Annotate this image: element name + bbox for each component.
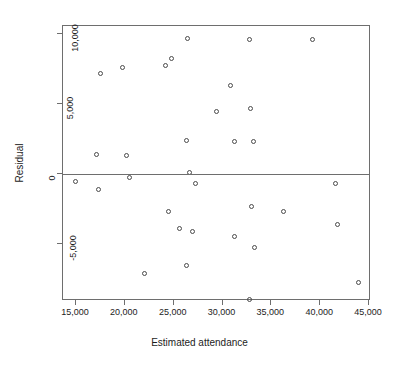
data-point [228,83,233,88]
data-point [184,138,189,143]
data-point [169,56,174,61]
data-point [73,179,78,184]
data-point [177,226,182,231]
x-tick-mark [270,300,271,305]
data-point [124,153,129,158]
data-point [248,106,253,111]
y-tick-label: 5,000 [65,96,75,119]
data-point [333,181,338,186]
x-tick-mark [319,300,320,305]
data-point [166,209,171,214]
x-tick-mark [368,300,369,305]
y-tick-label: 0 [47,175,57,180]
x-tick-mark [75,300,76,305]
y-tick-mark [57,103,62,104]
data-point [252,245,257,250]
x-tick-label: 30,000 [208,307,236,317]
data-point [120,65,125,70]
data-point [127,175,132,180]
data-point [96,187,101,192]
x-tick-label: 20,000 [110,307,138,317]
x-tick-label: 40,000 [305,307,333,317]
data-point [232,139,237,144]
data-point [232,234,237,239]
x-axis-title: Estimated attendance [0,337,399,348]
x-tick-label: 45,000 [354,307,382,317]
data-point [142,271,147,276]
x-tick-mark [222,300,223,305]
data-point [185,36,190,41]
data-point [335,222,340,227]
plot-area [62,25,370,300]
x-tick-label: 25,000 [159,307,187,317]
y-axis-title: Residual [14,144,25,183]
x-tick-label: 15,000 [61,307,89,317]
data-point [281,209,286,214]
data-point [247,297,252,302]
y-tick-label: -5,000 [68,235,78,261]
y-tick-label: 10,000 [70,24,80,52]
data-point [193,181,198,186]
data-point [310,37,315,42]
data-point [98,71,103,76]
x-tick-mark [173,300,174,305]
data-point [214,109,219,114]
data-point [356,280,361,285]
data-point [247,37,252,42]
data-points-layer [63,26,369,299]
y-tick-mark [57,243,62,244]
data-point [251,139,256,144]
data-point [94,152,99,157]
x-tick-mark [124,300,125,305]
data-point [163,63,168,68]
x-tick-label: 35,000 [257,307,285,317]
residual-scatter-figure: 15,00020,00025,00030,00035,00040,00045,0… [0,0,399,366]
data-point [249,204,254,209]
data-point [190,229,195,234]
y-tick-mark [57,33,62,34]
zero-reference-line [63,174,369,175]
data-point [184,263,189,268]
y-tick-mark [57,173,62,174]
